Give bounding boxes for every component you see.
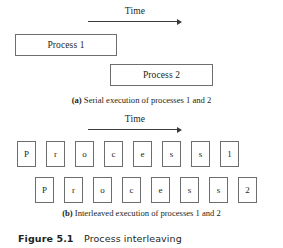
letter-cell-text: 2 (245, 185, 250, 195)
letter-cell: e (151, 177, 170, 203)
letter-cell: r (46, 141, 65, 167)
letter-cell: s (209, 177, 228, 203)
sub-caption-b: (b) Interleaved execution of processes 1… (0, 208, 283, 219)
sub-caption-a-text: Serial execution of processes 1 and 2 (82, 95, 212, 105)
letter-cell: o (93, 177, 112, 203)
arrow-head (177, 19, 182, 25)
right-arrow-icon (88, 126, 182, 133)
letter-cell-text: s (188, 185, 192, 195)
letter-row-process-1: P r o c e s s 1 (0, 141, 283, 167)
letter-cell: e (133, 141, 152, 167)
letter-cell: r (64, 177, 83, 203)
letter-cell-text: c (112, 149, 116, 159)
letter-cell: c (104, 141, 123, 167)
letter-cell-text: s (170, 149, 174, 159)
figure-number: Figure 5.1 (18, 232, 74, 245)
sub-caption-b-tag: (b) (62, 208, 73, 218)
process-bar-process-1: Process 1 (15, 34, 117, 56)
letter-cell: o (75, 141, 94, 167)
letter-cell: 1 (220, 141, 239, 167)
figure-process-interleaving: Time Process 1 Process 2 (a) Serial exec… (0, 0, 283, 248)
time-axis-label-a: Time (88, 6, 182, 17)
letter-cell-text: r (72, 185, 75, 195)
letter-cell-text: s (199, 149, 203, 159)
letter-cell: P (17, 141, 36, 167)
sub-caption-b-text: Interleaved execution of processes 1 and… (73, 208, 221, 218)
right-arrow-icon (88, 18, 182, 25)
letter-cell-text: P (24, 149, 29, 159)
process-bar-label-2: Process 2 (143, 70, 180, 81)
letter-cell: 2 (238, 177, 257, 203)
process-bar-process-2: Process 2 (110, 64, 213, 86)
letter-cell-text: s (217, 185, 221, 195)
figure-caption: Figure 5.1 Process interleaving (0, 232, 283, 246)
letter-cell: s (191, 141, 210, 167)
process-bar-label-1: Process 1 (47, 40, 84, 51)
sub-caption-a: (a) Serial execution of processes 1 and … (0, 95, 283, 106)
letter-cell-text: 1 (227, 149, 232, 159)
arrow-shaft (88, 129, 179, 130)
letter-cell-text: c (130, 185, 134, 195)
letter-cell-text: o (100, 185, 105, 195)
letter-cell: c (122, 177, 141, 203)
letter-cell: P (35, 177, 54, 203)
figure-title: Process interleaving (84, 232, 182, 245)
arrow-head (177, 127, 182, 133)
letter-cell-text: o (82, 149, 87, 159)
letter-cell-text: r (54, 149, 57, 159)
sub-caption-a-tag: (a) (72, 95, 82, 105)
letter-cell-text: e (141, 149, 145, 159)
letter-cell-text: P (42, 185, 47, 195)
arrow-shaft (88, 21, 179, 22)
letter-cell-text: e (159, 185, 163, 195)
letter-cell: s (180, 177, 199, 203)
letter-row-process-2: P r o c e s s 2 (0, 177, 283, 203)
time-axis-label-b: Time (88, 114, 182, 125)
letter-cell: s (162, 141, 181, 167)
